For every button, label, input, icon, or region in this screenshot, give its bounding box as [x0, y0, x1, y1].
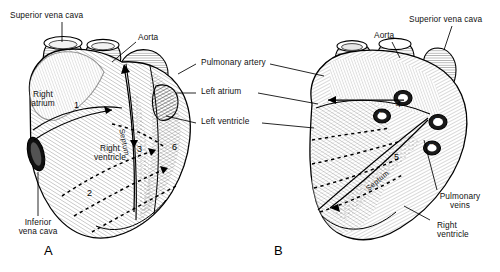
marker-5: 5 — [394, 152, 399, 162]
label-superior-vena-cava-b: Superior vena cava — [409, 15, 482, 24]
clipped-caption-strip — [0, 265, 500, 272]
label-aorta-a: Aorta — [138, 33, 158, 42]
label-superior-vena-cava-a: Superior vena cava — [10, 11, 83, 20]
left-atrial-appendage-a — [153, 85, 178, 120]
label-inferior-vena-cava-a-line2: vena cava — [10, 227, 66, 236]
marker-1: 1 — [74, 100, 79, 110]
panel-letter-b: B — [274, 243, 283, 258]
label-pulmonary-artery: Pulmonary artery — [201, 58, 266, 67]
marker-2: 2 — [87, 188, 92, 198]
leader-svc-b — [444, 26, 452, 50]
opening-letter-left-inferior: L — [379, 111, 383, 118]
label-pulmonary-veins-b: Pulmonary veins — [429, 192, 491, 211]
label-left-atrium: Left atrium — [201, 87, 241, 96]
leader-lv-right — [262, 123, 314, 128]
opening-letter-right-superior: R — [435, 117, 440, 124]
leader-pa-right — [270, 64, 324, 76]
marker-6: 6 — [172, 142, 177, 152]
label-right-atrium-a: Right atrium — [22, 90, 64, 109]
label-right-ventricle-b: Right ventricle — [437, 221, 469, 240]
opening-letter-right-inferior: R — [429, 143, 434, 150]
heart-anatomy-figure: Superior vena cava Aorta Right atrium Ri… — [0, 0, 500, 272]
opening-letter-left-superior: L — [400, 93, 404, 100]
label-right-ventricle-b-line2: ventricle — [437, 230, 469, 239]
label-left-ventricle: Left ventricle — [201, 117, 249, 126]
heart-illustration-artwork — [0, 0, 500, 272]
panel-letter-a: A — [44, 243, 53, 258]
label-aorta-b: Aorta — [374, 31, 394, 40]
marker-3: 3 — [137, 144, 142, 154]
label-inferior-vena-cava-a: Inferior vena cava — [10, 218, 66, 237]
label-right-atrium-a-line2: atrium — [22, 99, 64, 108]
leader-pa-left — [178, 64, 196, 74]
marker-4: 4 — [396, 99, 401, 109]
leader-la-right — [258, 93, 318, 104]
label-pulmonary-veins-b-line2: veins — [429, 201, 491, 210]
